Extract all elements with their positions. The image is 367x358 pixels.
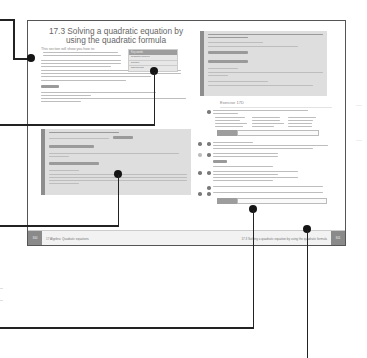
callout-line (0, 19, 14, 21)
background-mark (356, 105, 362, 106)
text-line (213, 110, 308, 111)
question-marker (198, 153, 202, 157)
page-number-left: 300 (28, 231, 42, 245)
text-line (41, 95, 91, 96)
question-marker (207, 192, 211, 196)
divider (220, 107, 332, 108)
question-marker (198, 192, 202, 196)
callout-line (307, 230, 309, 358)
hint-box (237, 130, 319, 136)
intro-bullet-1 (43, 52, 118, 53)
background-mark (0, 288, 3, 289)
book-spread: 17.3 Solving a quadratic equation by usi… (27, 20, 346, 246)
hint-tag (217, 198, 237, 204)
question-marker (207, 153, 211, 157)
page-title: 17.3 Solving a quadratic equation by usi… (41, 27, 191, 45)
worked-example-box (41, 129, 191, 195)
background-mark (356, 140, 362, 141)
text-line (41, 66, 111, 67)
question-marker (198, 142, 202, 146)
hint-tag (217, 130, 237, 136)
callout-line (0, 327, 254, 329)
page-number-right: 301 (331, 231, 345, 245)
question-marker (198, 171, 202, 175)
formula (41, 85, 59, 88)
question-marker (207, 186, 211, 190)
footer-left: 17 Algebra: Quadratic equations (46, 237, 89, 241)
text-line (41, 60, 121, 61)
callout-line (154, 72, 156, 125)
hint-box (237, 198, 327, 204)
question-marker (207, 110, 211, 114)
text-line (41, 98, 186, 99)
intro-heading: This section will show you how to: (41, 47, 95, 51)
callout-line (253, 210, 255, 328)
text-line (41, 76, 151, 77)
text-line (41, 73, 181, 74)
callout-marker (27, 54, 35, 62)
question-marker (207, 171, 211, 175)
background-mark (0, 300, 3, 301)
callout-line (13, 19, 15, 59)
footer-right: 17.3 Solving a quadratic equation by usi… (241, 237, 327, 241)
exercise-title: Exercise 17D (220, 100, 244, 105)
callout-line (0, 225, 119, 227)
worked-example-box-right (200, 31, 327, 96)
text-line (41, 63, 121, 64)
text-line (41, 101, 81, 102)
intro-bullet-2 (43, 55, 121, 56)
text-line (41, 80, 126, 81)
question-marker (207, 142, 211, 146)
text-line (213, 113, 238, 114)
callout-line (0, 124, 155, 126)
text-line (41, 92, 156, 93)
callout-line (118, 175, 120, 226)
